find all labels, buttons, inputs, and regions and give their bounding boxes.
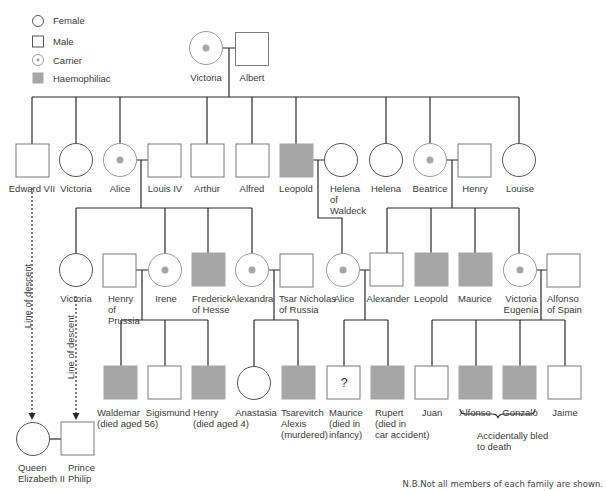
label-helena-waldeck: Helena of Waldeck [330,183,366,216]
label-juan: Juan [422,407,443,418]
label-gonzalo: Gonzalo [502,407,537,418]
label-albert: Albert [240,72,265,83]
label-queen-elizabeth: Queen Elizabeth II [18,462,65,484]
legend-symbols [33,16,44,84]
bled-annotation: Accidentally bled to death [477,430,548,452]
label-alexandra: Alexandra [231,293,274,304]
label-henry-prussia: Henry of Prussia [108,293,140,326]
gen2-symbols [16,144,536,178]
unknown-mark: ? [340,375,347,390]
label-leopold-gen3: Leopold [414,293,448,304]
line-of-descent-label-1: Line of descent [22,264,33,328]
legend-carrier: Carrier [53,55,82,66]
label-sigismund: Sigismund [146,407,190,418]
line-of-descent-label-2: Line of descent [65,315,76,379]
label-frederick: Frederick of Hesse [192,293,232,315]
label-tsarevitch-alexis: Tsarevitch Alexis (murdered) [281,407,328,440]
legend-male: Male [53,36,74,47]
label-maurice-gen4: Maurice (died in infancy) [329,407,363,440]
label-anastasia: Anastasia [235,407,277,418]
label-louise: Louise [506,183,534,194]
label-irene: Irene [155,293,177,304]
label-beatrice: Beatrice [413,183,448,194]
label-alfonso: Alfonso [459,407,491,418]
label-arthur: Arthur [194,183,220,194]
label-alice-gen2: Alice [110,183,131,194]
label-victoria-gen3: Victoria [60,293,92,304]
label-helena: Helena [371,183,401,194]
footnote: N.B.Not all members of each family are s… [403,479,603,489]
legend-haemophiliac: Haemophiliac [53,73,111,84]
label-victoria-gen2: Victoria [60,183,92,194]
label-victoria-gen1: Victoria [190,72,222,83]
label-alexander: Alexander [367,293,410,304]
label-maurice-gen3: Maurice [458,293,492,304]
label-prince-philip: Prince Philip [68,462,95,484]
label-alfonso-spain: Alfonso of Spain [547,293,582,315]
descent-arrows [29,413,80,420]
label-alfred: Alfred [240,183,265,194]
label-louis-iv: Louis IV [148,183,182,194]
label-leopold-gen2: Leopold [279,183,313,194]
label-tsar-nicholas: Tsar Nicholas of Russia [279,293,336,315]
label-alice-gen3: Alice [334,293,355,304]
legend-female: Female [53,15,85,26]
label-edward-vii: Edward VII [9,183,55,194]
label-henry-gen2: Henry [462,183,487,194]
label-victoria-eugenia: Victoria Eugenia [504,293,539,315]
label-jaime: Jaime [552,407,577,418]
